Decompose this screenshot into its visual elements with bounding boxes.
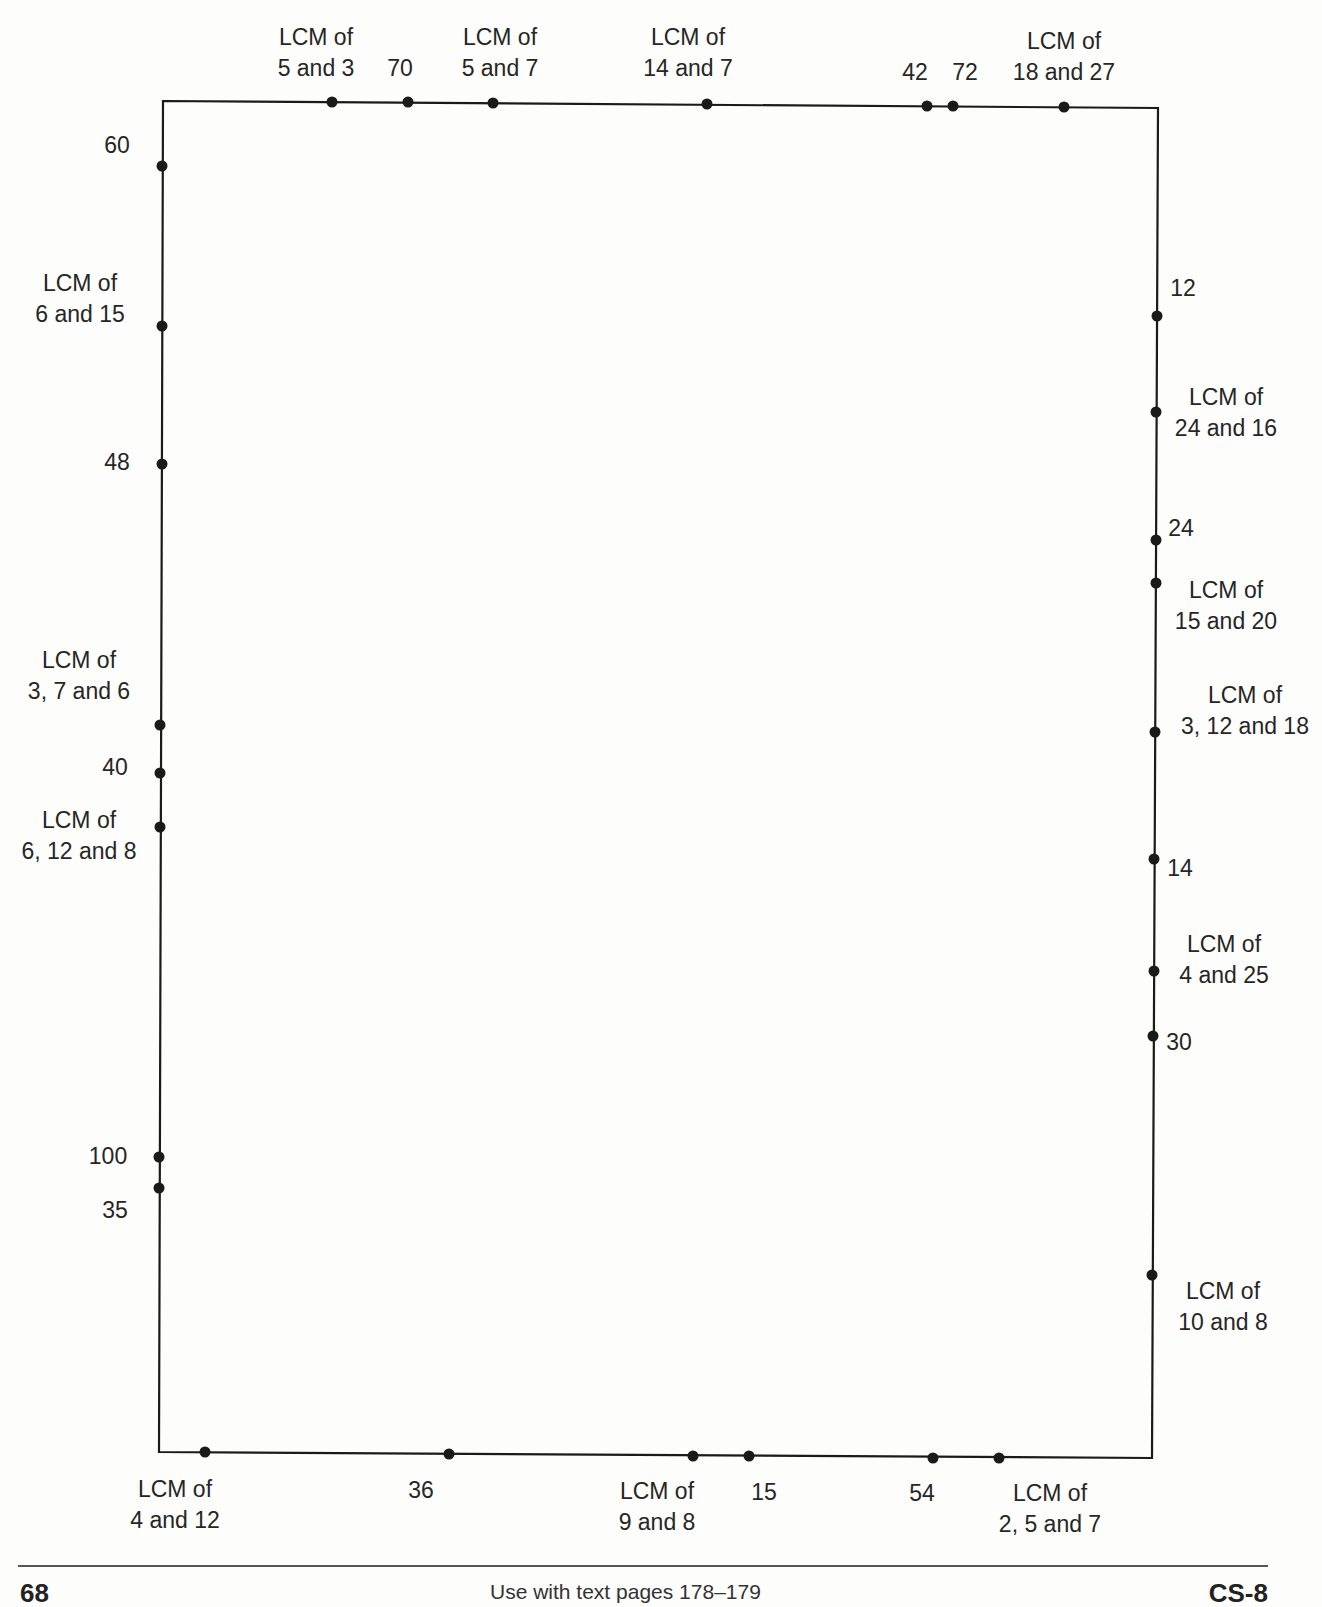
point-label-line: LCM of	[278, 22, 355, 53]
point-label-line: 40	[102, 752, 128, 783]
point-label-line: 30	[1166, 1027, 1192, 1058]
point-label-line: 15	[751, 1477, 777, 1508]
point-label-line: 9 and 8	[619, 1507, 696, 1538]
point-label-line: LCM of	[1175, 382, 1277, 413]
point-label: LCM of3, 7 and 6	[28, 645, 130, 707]
point-label-line: 72	[952, 57, 978, 88]
point-label: LCM of5 and 3	[278, 22, 355, 84]
dot-bottom-0	[200, 1447, 211, 1458]
footer-divider	[18, 1565, 1268, 1567]
point-label-line: 3, 7 and 6	[28, 676, 130, 707]
dot-right-8	[1147, 1270, 1158, 1281]
point-label-line: LCM of	[21, 805, 136, 836]
point-label: LCM of18 and 27	[1013, 26, 1115, 88]
point-label: 100	[89, 1141, 127, 1172]
point-label-line: LCM of	[1179, 929, 1269, 960]
point-label: 35	[102, 1195, 128, 1226]
point-label-line: LCM of	[1181, 680, 1309, 711]
point-label: 14	[1167, 853, 1193, 884]
dot-bottom-5	[994, 1453, 1005, 1464]
point-label: 12	[1170, 273, 1196, 304]
point-label-line: 5 and 3	[278, 53, 355, 84]
point-label: 40	[102, 752, 128, 783]
point-label-line: 2, 5 and 7	[999, 1509, 1101, 1540]
point-label: 36	[408, 1475, 434, 1506]
point-label: LCM of9 and 8	[619, 1476, 696, 1538]
point-label-line: 3, 12 and 18	[1181, 711, 1309, 742]
point-label-line: LCM of	[1175, 575, 1277, 606]
dot-left-1	[157, 321, 168, 332]
point-label-line: 14 and 7	[643, 53, 733, 84]
dot-right-7	[1148, 1031, 1159, 1042]
point-label: 15	[751, 1477, 777, 1508]
point-label-line: 100	[89, 1141, 127, 1172]
dot-top-1	[403, 97, 414, 108]
point-label-line: 60	[104, 130, 130, 161]
point-label-line: 24 and 16	[1175, 413, 1277, 444]
worksheet-code: CS-8	[1209, 1578, 1268, 1607]
point-label-line: 15 and 20	[1175, 606, 1277, 637]
point-label-line: 4 and 25	[1179, 960, 1269, 991]
point-label: LCM of6, 12 and 8	[21, 805, 136, 867]
dot-top-4	[922, 101, 933, 112]
page-number: 68	[20, 1578, 49, 1607]
point-label: 70	[387, 53, 413, 84]
point-label: 24	[1168, 513, 1194, 544]
point-label-line: 6, 12 and 8	[21, 836, 136, 867]
point-label-line: LCM of	[1013, 26, 1115, 57]
point-label: 30	[1166, 1027, 1192, 1058]
point-label: LCM of2, 5 and 7	[999, 1478, 1101, 1540]
dot-left-2	[157, 459, 168, 470]
point-label: 60	[104, 130, 130, 161]
dot-right-2	[1151, 535, 1162, 546]
point-label: LCM of24 and 16	[1175, 382, 1277, 444]
point-label-line: LCM of	[1178, 1276, 1268, 1307]
dot-left-4	[155, 768, 166, 779]
dot-top-2	[488, 98, 499, 109]
point-label-line: 10 and 8	[1178, 1307, 1268, 1338]
point-label-line: LCM of	[35, 268, 125, 299]
dot-left-0	[157, 161, 168, 172]
dot-bottom-1	[444, 1449, 455, 1460]
point-label-line: 70	[387, 53, 413, 84]
point-label-line: 48	[104, 447, 130, 478]
dot-right-4	[1150, 727, 1161, 738]
dot-left-6	[154, 1152, 165, 1163]
point-label: LCM of15 and 20	[1175, 575, 1277, 637]
dot-right-6	[1149, 966, 1160, 977]
point-label-line: 54	[909, 1478, 935, 1509]
dot-bottom-3	[744, 1451, 755, 1462]
dot-right-0	[1152, 311, 1163, 322]
point-label-line: LCM of	[999, 1478, 1101, 1509]
point-label-line: LCM of	[619, 1476, 696, 1507]
dot-bottom-4	[928, 1453, 939, 1464]
point-label-line: 42	[902, 57, 928, 88]
dot-right-3	[1151, 578, 1162, 589]
dot-left-3	[155, 720, 166, 731]
point-label: LCM of10 and 8	[1178, 1276, 1268, 1338]
path-frame	[159, 101, 1158, 1458]
dot-top-5	[948, 101, 959, 112]
point-label-line: LCM of	[643, 22, 733, 53]
point-label-line: 14	[1167, 853, 1193, 884]
dot-top-3	[702, 99, 713, 110]
dots-group	[154, 97, 1163, 1464]
point-label-line: 5 and 7	[462, 53, 539, 84]
point-label-line: 35	[102, 1195, 128, 1226]
point-label: LCM of14 and 7	[643, 22, 733, 84]
point-label: LCM of6 and 15	[35, 268, 125, 330]
point-label-line: 18 and 27	[1013, 57, 1115, 88]
point-label-line: LCM of	[462, 22, 539, 53]
point-label-line: LCM of	[130, 1474, 220, 1505]
point-label: 42	[902, 57, 928, 88]
point-label-line: 24	[1168, 513, 1194, 544]
point-label-line: 12	[1170, 273, 1196, 304]
dot-right-1	[1151, 407, 1162, 418]
point-label: LCM of3, 12 and 18	[1181, 680, 1309, 742]
point-label: 72	[952, 57, 978, 88]
dot-top-0	[327, 97, 338, 108]
point-label: LCM of4 and 25	[1179, 929, 1269, 991]
dot-bottom-2	[688, 1451, 699, 1462]
dot-left-5	[155, 822, 166, 833]
